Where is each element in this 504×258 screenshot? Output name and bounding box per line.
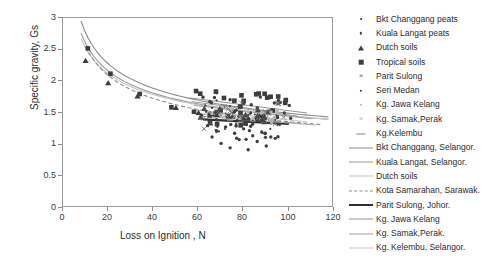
- legend-item-bkt-changgang-peats[interactable]: Bkt Changgang peats: [348, 12, 504, 26]
- x-tick-mark: [152, 207, 153, 211]
- marker-dash-icon: [348, 127, 374, 141]
- line-solid-light-icon: [348, 241, 374, 255]
- legend-label: Kota Samarahan, Sarawak.: [374, 186, 480, 195]
- legend-item-tropical-soils[interactable]: Tropical soils: [348, 55, 504, 69]
- legend-label: Kg. Jawa Kelang: [374, 215, 440, 224]
- y-tick-label: 0: [30, 203, 56, 212]
- legend-label: Bkt Changgang peats: [374, 15, 458, 24]
- x-tick-label: 20: [92, 213, 122, 222]
- y-tick-label: 0.5: [30, 171, 56, 180]
- x-tick-mark: [242, 207, 243, 211]
- legend-label: Kg. Samak,Perak: [374, 115, 442, 124]
- legend-label: Bkt Changgang, Selangor.: [374, 143, 475, 152]
- legend-label: Kg.Kelembu: [374, 129, 422, 138]
- legend-item-kg-jawa-kelang-marker[interactable]: Kg. Jawa Kelang: [348, 98, 504, 112]
- line-solid-icon: [348, 141, 374, 155]
- marker-dot-icon: [348, 26, 374, 40]
- legend-item-seri-medan[interactable]: Seri Medan: [348, 83, 504, 97]
- chart-legend: Bkt Changgang peats Kuala Langat peats D…: [348, 12, 504, 255]
- plot-canvas: [63, 18, 334, 208]
- y-tick-label: 1: [30, 139, 56, 148]
- x-axis-title: Loss on Ignition , N: [120, 230, 206, 241]
- legend-label: Kuala Langat, Selangor.: [374, 158, 467, 167]
- legend-item-kg-kelembu-marker[interactable]: Kg.Kelembu: [348, 126, 504, 140]
- x-tick-mark: [333, 207, 334, 211]
- marker-small-dot-icon: [348, 12, 374, 26]
- line-solid-icon: [348, 227, 374, 241]
- line-thick-icon: [348, 198, 374, 212]
- x-tick-label: 80: [227, 213, 257, 222]
- legend-label: Parit Sulong: [374, 72, 422, 81]
- legend-label: Dutch soils: [374, 43, 418, 52]
- legend-item-kota-samarahan-line[interactable]: Kota Samarahan, Sarawak.: [348, 184, 504, 198]
- legend-item-kuala-langat-peats[interactable]: Kuala Langat peats: [348, 26, 504, 40]
- chart-figure: 3 2.5 2 1.5 1 0.5 0 Specific gravity, Gs…: [0, 0, 504, 258]
- marker-dot-icon: [348, 84, 374, 98]
- marker-triangle-icon: [348, 41, 374, 55]
- legend-item-kg-jawa-kelang-line[interactable]: Kg. Jawa Kelang: [348, 212, 504, 226]
- x-tick-label: 120: [318, 213, 348, 222]
- legend-item-kg-samak-perak-line[interactable]: Kg. Samak,Perak.: [348, 226, 504, 240]
- legend-item-bkt-changgang-line[interactable]: Bkt Changgang, Selangor.: [348, 141, 504, 155]
- legend-item-kg-kelembu-line[interactable]: Kg. Kelembu, Selangor.: [348, 241, 504, 255]
- line-solid-light-icon: [348, 169, 374, 183]
- legend-item-kg-samak-perak-marker[interactable]: × Kg. Samak,Perak: [348, 112, 504, 126]
- legend-label: Parit Sulong, Johor.: [374, 201, 450, 210]
- legend-label: Kg. Samak,Perak.: [374, 229, 445, 238]
- legend-item-kuala-langat-line[interactable]: Kuala Langat, Selangor.: [348, 155, 504, 169]
- legend-label: Seri Medan: [374, 86, 419, 95]
- x-tick-label: 40: [137, 213, 167, 222]
- x-tick-label: 60: [182, 213, 212, 222]
- x-tick-mark: [107, 207, 108, 211]
- x-tick-label: 0: [47, 213, 77, 222]
- line-solid-icon: [348, 155, 374, 169]
- y-axis-title: Specific gravity, Gs: [29, 8, 40, 128]
- marker-dot-light-icon: [348, 98, 374, 112]
- legend-label: Kg. Kelembu, Selangor.: [374, 243, 465, 252]
- legend-label: Kg. Jawa Kelang: [374, 100, 440, 109]
- marker-cross-icon: ×: [348, 69, 374, 83]
- legend-label: Dutch soils: [374, 172, 418, 181]
- marker-cross-light-icon: ×: [348, 112, 374, 126]
- marker-square-icon: [348, 55, 374, 69]
- legend-item-parit-sulong-line[interactable]: Parit Sulong, Johor.: [348, 198, 504, 212]
- x-tick-mark: [197, 207, 198, 211]
- legend-item-parit-sulong-marker[interactable]: × Parit Sulong: [348, 69, 504, 83]
- legend-item-dutch-soils-marker[interactable]: Dutch soils: [348, 41, 504, 55]
- line-solid-icon: [348, 212, 374, 226]
- x-tick-mark: [62, 207, 63, 211]
- legend-label: Kuala Langat peats: [374, 29, 449, 38]
- legend-item-dutch-soils-line[interactable]: Dutch soils: [348, 169, 504, 183]
- x-tick-mark: [288, 207, 289, 211]
- plot-area: [62, 17, 333, 207]
- x-tick-label: 100: [273, 213, 303, 222]
- line-dashed-icon: [348, 184, 374, 198]
- legend-label: Tropical soils: [374, 58, 425, 67]
